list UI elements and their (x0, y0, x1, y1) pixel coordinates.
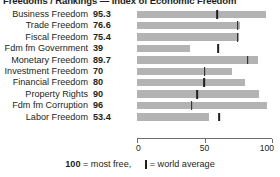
chart-row-value: 95.3 (93, 9, 126, 20)
chart-title-clipped: Freedoms / Rankings — Index of Economic … (3, 0, 277, 6)
chart-row: Labor Freedom53.4 (0, 112, 280, 123)
chart-row-track (137, 90, 272, 97)
economic-freedom-chart: Freedoms / Rankings — Index of Economic … (0, 0, 280, 177)
chart-row-bar (137, 22, 240, 29)
page-title: Freedoms / Rankings — Index of Economic … (3, 0, 277, 6)
world-average-marker (237, 33, 239, 42)
chart-row-label: Labor Freedom (26, 112, 88, 123)
chart-row-track (137, 45, 272, 52)
chart-row-track (137, 11, 272, 18)
chart-row-value: 80 (93, 77, 126, 88)
world-average-marker (216, 10, 218, 19)
chart-row-value: 53.4 (93, 112, 126, 123)
chart-row-bar (137, 79, 245, 86)
chart-row-track (137, 79, 272, 86)
world-average-marker (217, 44, 219, 53)
world-average-marker (203, 78, 205, 87)
chart-row-label: Fiscal Freedom (25, 32, 88, 43)
chart-row-label: Fdm fm Corruption (12, 100, 88, 111)
chart-row-value: 90 (93, 89, 126, 100)
legend-most-free-label: = most free, (83, 158, 131, 170)
chart-row-track (137, 22, 272, 29)
chart-row-label: Business Freedom (12, 9, 88, 20)
x-axis-tick-label: 50 (200, 143, 210, 153)
chart-row-bar (137, 45, 190, 52)
chart-row-label: Property Rights (25, 89, 88, 100)
chart-row: Business Freedom95.3 (0, 9, 280, 20)
chart-row-bar (137, 102, 267, 109)
chart-row-value: 39 (93, 43, 126, 54)
world-average-marker (191, 101, 193, 110)
chart-row-bar (137, 68, 232, 75)
chart-row-value: 89.7 (93, 55, 126, 66)
chart-row: Fdm fm Corruption96 (0, 100, 280, 111)
chart-row-bar (137, 56, 258, 63)
chart-row: Fdm fm Government39 (0, 43, 280, 54)
chart-row-value: 96 (93, 100, 126, 111)
chart-row-value: 75.4 (93, 32, 126, 43)
world-average-marker (218, 113, 220, 122)
chart-row: Property Rights90 (0, 89, 280, 100)
chart-row: Investment Freedom70 (0, 66, 280, 77)
x-axis-tick-label: 0 (136, 143, 141, 153)
chart-row: Fiscal Freedom75.4 (0, 32, 280, 43)
x-axis-tick-labels: 050100 (0, 143, 280, 155)
chart-row-label: Trade Freedom (26, 20, 88, 31)
world-average-marker (204, 67, 206, 76)
chart-row-bar (137, 33, 239, 40)
chart-row-track (137, 102, 272, 109)
legend-world-average-label: = world average (150, 158, 215, 170)
world-average-marker (196, 90, 198, 99)
chart-row: Trade Freedom76.6 (0, 20, 280, 31)
world-average-marker-icon (145, 160, 147, 169)
chart-row-value: 70 (93, 66, 126, 77)
chart-rows: Business Freedom95.3Trade Freedom76.6Fis… (0, 9, 280, 123)
chart-row-label: Investment Freedom (5, 66, 88, 77)
chart-row-track (137, 33, 272, 40)
x-axis-tick (137, 139, 138, 143)
chart-row: Financial Freedom80 (0, 77, 280, 88)
chart-row-value: 76.6 (93, 20, 126, 31)
x-axis-tick (272, 139, 273, 143)
chart-row-label: Monetary Freedom (11, 55, 88, 66)
chart-row: Monetary Freedom89.7 (0, 55, 280, 66)
chart-row-bar (137, 113, 209, 120)
chart-row-track (137, 56, 272, 63)
chart-row-bar (137, 11, 266, 18)
legend-most-free-number: 100 (65, 158, 80, 170)
chart-row-track (137, 113, 272, 120)
chart-row-label: Financial Freedom (13, 77, 88, 88)
chart-row-track (137, 68, 272, 75)
world-average-marker (237, 21, 239, 30)
world-average-marker (247, 56, 249, 65)
x-axis-tick (205, 139, 206, 143)
chart-row-label: Fdm fm Government (5, 43, 88, 54)
chart-legend: 100 = most free, = world average (0, 157, 280, 171)
x-axis-tick-label: 100 (260, 143, 274, 153)
